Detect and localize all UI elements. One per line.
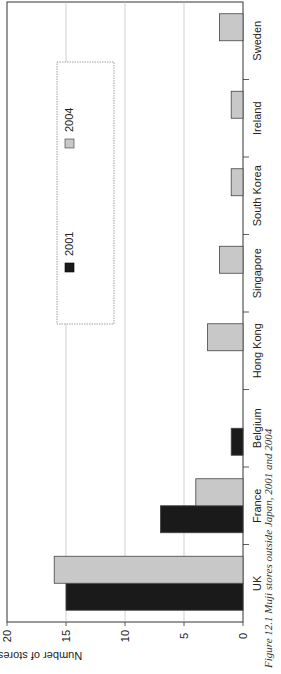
legend: 2001 2004 (57, 62, 114, 324)
category-label: Sweden (251, 21, 263, 61)
category-label: Ireland (251, 101, 263, 135)
bar-chart: UKFranceBelgiumHong KongSingaporeSouth K… (0, 0, 281, 674)
bar-2004-france (196, 479, 243, 506)
value-tick-label: 0 (237, 633, 249, 639)
legend-swatch-2004 (65, 139, 74, 148)
bar-2004-south-korea (231, 169, 243, 196)
value-tick-label: 10 (119, 630, 131, 642)
legend-label-2001: 2001 (63, 232, 75, 256)
bar-2004-uk (54, 556, 243, 583)
category-label: Hong Kong (251, 323, 263, 378)
category-label: Singapore (251, 248, 263, 298)
y-axis-label: Number of stores (0, 650, 82, 662)
legend-label-2004: 2004 (63, 108, 75, 132)
value-tick-label: 20 (1, 630, 13, 642)
value-tick-labels: 05101520 (1, 630, 249, 642)
bar-2004-singapore (219, 246, 243, 273)
bar-2004-hong-kong (208, 324, 243, 351)
category-label: South Korea (251, 164, 263, 226)
bar-2004-sweden (219, 14, 243, 41)
value-tick-label: 5 (178, 633, 190, 639)
bar-2004-ireland (231, 91, 243, 118)
bar-2001-france (160, 506, 243, 533)
legend-swatch-2001 (65, 263, 74, 272)
value-tick-label: 15 (60, 630, 72, 642)
bar-2001-belgium (231, 428, 243, 455)
axis-ticks (7, 80, 249, 627)
bar-2001-uk (66, 583, 243, 610)
figure-caption: Figure 12.1 Muji stores outside Japan, 2… (262, 428, 274, 669)
